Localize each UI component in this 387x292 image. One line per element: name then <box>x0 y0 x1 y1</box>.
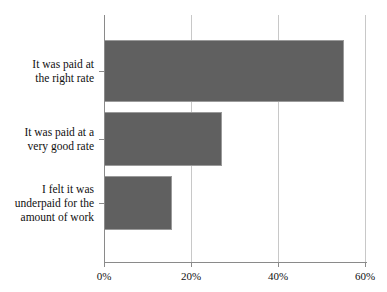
x-tick-label-60: 60% <box>345 270 385 282</box>
category-tick-2 <box>99 139 104 140</box>
x-tick-20 <box>191 262 192 267</box>
category-label-2-line-2: very good rate <box>0 139 94 153</box>
category-label-3-line-1: I felt it was <box>0 182 94 196</box>
category-label-3: I felt it was underpaid for the amount o… <box>0 182 94 224</box>
category-label-3-line-2: underpaid for the <box>0 196 94 210</box>
x-axis-line <box>104 262 367 263</box>
category-label-1-line-1: It was paid at <box>0 57 94 71</box>
x-tick-0 <box>104 262 105 267</box>
x-tick-label-20: 20% <box>171 270 211 282</box>
plot-area <box>104 15 366 262</box>
bar-it-was-paid-at-the-right-rate[interactable] <box>104 40 344 102</box>
x-tick-label-0: 0% <box>84 270 124 282</box>
bar-chart: It was paid at the right rate It was pai… <box>0 0 387 292</box>
y-axis-line <box>104 15 105 263</box>
category-label-1: It was paid at the right rate <box>0 57 94 85</box>
category-label-1-line-2: the right rate <box>0 71 94 85</box>
chart-title-cropped <box>60 0 320 1</box>
category-tick-3 <box>99 203 104 204</box>
gridline-60 <box>365 15 366 262</box>
bar-i-felt-it-was-underpaid[interactable] <box>104 176 172 230</box>
bar-it-was-paid-at-a-very-good-rate[interactable] <box>104 112 222 166</box>
category-tick-1 <box>99 71 104 72</box>
category-label-3-line-3: amount of work <box>0 210 94 224</box>
x-tick-60 <box>365 262 366 267</box>
x-tick-label-40: 40% <box>258 270 298 282</box>
x-tick-40 <box>278 262 279 267</box>
category-label-2-line-1: It was paid at a <box>0 125 94 139</box>
category-label-2: It was paid at a very good rate <box>0 125 94 153</box>
